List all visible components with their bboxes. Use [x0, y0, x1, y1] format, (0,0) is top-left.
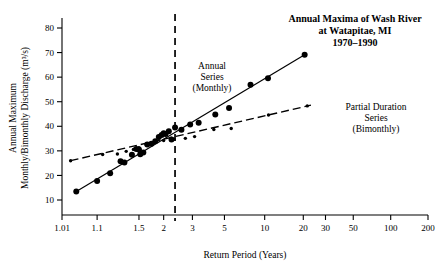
chart-figure: 10203040506070801.011.11.523510203050100…: [0, 0, 441, 265]
partial-duration-annotation-line: (Bimonthly): [353, 124, 400, 135]
chart-title-line: at Watapitae, MI: [319, 25, 392, 36]
partial-duration-annotation: Partial DurationSeries(Bimonthly): [346, 102, 407, 135]
y-tick-label: 20: [45, 171, 55, 181]
data-point: [193, 135, 196, 138]
data-point: [265, 75, 271, 81]
y-axis-label-line: Monthly/Bimonthly Discharge (m³/s): [20, 47, 31, 189]
y-tick-label: 80: [45, 23, 55, 33]
x-tick-label: 10: [260, 223, 270, 233]
y-tick-label: 70: [45, 48, 55, 58]
data-point: [153, 141, 156, 144]
y-tick-label: 30: [45, 146, 55, 156]
data-point: [230, 127, 233, 130]
data-point: [69, 159, 72, 162]
x-tick-label: 5: [222, 223, 227, 233]
partial-duration-annotation-line: Partial Duration: [346, 102, 407, 112]
data-point: [132, 148, 135, 151]
data-point: [140, 150, 146, 156]
data-point: [166, 128, 172, 134]
x-tick-label: 50: [349, 223, 359, 233]
data-point: [212, 111, 218, 117]
data-point: [172, 138, 175, 141]
x-tick-label: 20: [299, 223, 309, 233]
series-fit-line: [71, 105, 311, 161]
data-point: [267, 113, 270, 116]
data-point: [226, 105, 232, 111]
series-partial-duration: [69, 104, 311, 162]
data-point: [116, 152, 119, 155]
y-tick-label: 40: [45, 121, 55, 131]
x-tick-label: 1.01: [54, 223, 70, 233]
data-point: [137, 146, 140, 149]
data-point: [107, 170, 113, 176]
x-tick-label: 1.1: [91, 223, 102, 233]
data-point: [184, 137, 187, 140]
partial-duration-annotation-line: Series: [364, 113, 388, 123]
data-point: [162, 139, 165, 142]
chart-title: Annual Maxima of Wash Riverat Watapitae,…: [288, 13, 422, 48]
data-point: [144, 143, 147, 146]
data-point: [73, 188, 79, 194]
series-annual: [73, 52, 307, 195]
data-point: [196, 120, 202, 126]
annual-series-annotation-line: (Monthly): [192, 83, 231, 94]
data-point: [125, 150, 128, 153]
x-axis-label: Return Period (Years): [204, 250, 287, 261]
data-point: [248, 82, 254, 88]
x-tick-label: 100: [384, 223, 398, 233]
annual-series-annotation-line: Annual: [198, 61, 226, 71]
data-point: [94, 178, 100, 184]
x-tick-label: 30: [321, 223, 331, 233]
y-tick-label: 60: [45, 72, 55, 82]
y-axis-label-line: Annual Maximum: [8, 82, 18, 153]
data-point: [101, 153, 104, 156]
annual-series-annotation: AnnualSeries(Monthly): [192, 61, 231, 94]
chart-title-line: 1970–1990: [333, 37, 378, 48]
data-point: [121, 159, 127, 165]
chart-title-line: Annual Maxima of Wash River: [288, 13, 422, 24]
x-tick-label: 3: [190, 223, 195, 233]
y-tick-label: 50: [45, 97, 55, 107]
data-point: [306, 104, 309, 107]
data-point: [178, 127, 184, 133]
data-point: [302, 52, 308, 58]
y-axis-label: Annual MaximumMonthly/Bimonthly Discharg…: [8, 47, 31, 189]
data-point: [187, 122, 193, 128]
x-tick-label: 2: [161, 223, 166, 233]
x-tick-label: 1.5: [133, 223, 145, 233]
x-tick-label: 200: [421, 223, 435, 233]
return-period-plot: 10203040506070801.011.11.523510203050100…: [0, 0, 441, 265]
data-point: [212, 128, 215, 131]
data-point: [172, 125, 178, 131]
data-point: [129, 152, 135, 158]
y-tick-label: 10: [45, 195, 55, 205]
annual-series-annotation-line: Series: [200, 72, 224, 82]
